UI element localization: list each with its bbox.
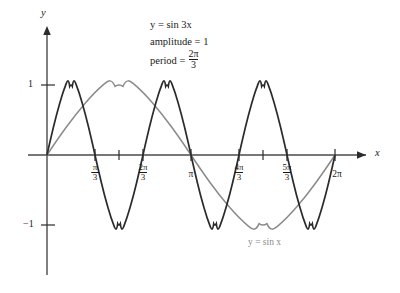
x-tick-label-2pi: 2π — [332, 169, 342, 179]
period-denominator: 3 — [189, 59, 198, 70]
period-numerator: 2π — [186, 49, 200, 59]
y-axis-label: y — [41, 8, 46, 19]
x-tick-label-5pi-over-3: 5π 3 — [280, 164, 294, 183]
period-text: period = — [150, 52, 185, 69]
annotation-block: y = sin 3x amplitude = 1 period = 2π 3 — [150, 16, 208, 71]
x-tick-label-pi: π — [189, 169, 194, 179]
x-tick-denominator: 3 — [139, 172, 147, 182]
x-tick-denominator: 3 — [283, 172, 291, 182]
y-axis-arrowhead — [43, 26, 51, 35]
x-tick-denominator: 3 — [235, 172, 243, 182]
x-axis-label: x — [375, 148, 380, 159]
sin-x-curve-label: y = sin x — [248, 237, 281, 247]
period-annotation: period = 2π 3 — [150, 50, 208, 71]
x-tick-label-2pi-over-3: 2π 3 — [136, 164, 150, 183]
x-tick-numerator: π — [91, 163, 99, 172]
x-tick-label-pi-over-3: π 3 — [90, 164, 100, 183]
y-tick-label-minus-1: −1 — [23, 219, 34, 229]
x-tick-denominator: 3 — [91, 172, 99, 182]
x-tick-numerator: 5π — [281, 163, 293, 172]
x-tick-numerator: 4π — [233, 163, 245, 172]
equation-annotation: y = sin 3x — [150, 16, 208, 33]
amplitude-text: amplitude = 1 — [150, 33, 208, 50]
x-axis-arrowhead — [357, 151, 366, 159]
amplitude-annotation: amplitude = 1 — [150, 33, 208, 50]
equation-text: y = sin 3x — [150, 16, 192, 33]
x-tick-label-4pi-over-3: 4π 3 — [232, 164, 246, 183]
x-tick-numerator: 2π — [137, 163, 149, 172]
y-tick-label-1: 1 — [28, 79, 33, 89]
period-fraction: 2π 3 — [186, 49, 200, 70]
